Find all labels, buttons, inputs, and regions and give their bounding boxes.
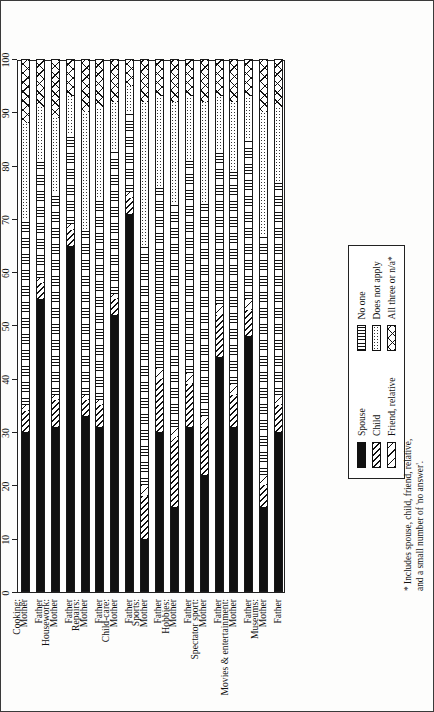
bar-segment-spouse: [66, 246, 75, 592]
bar-row: [200, 61, 209, 592]
bar-segment-no-one: [274, 182, 283, 395]
bar-segment-spouse: [200, 475, 209, 592]
bar-segment-child: [244, 310, 253, 337]
bar-segment-no-one: [51, 192, 60, 395]
bar-segment-does-not-apply: [110, 102, 119, 150]
x-axis-tick-label: 30: [0, 428, 11, 438]
footnote-line-2: and a small number of 'no answer'.: [414, 261, 427, 591]
bar-row: [170, 61, 179, 592]
bar-row: [140, 61, 149, 592]
bar-segment-no-one: [110, 150, 119, 294]
bar-segment-all-three-or-n-a: [36, 59, 45, 107]
legend-item: All three or n/a*: [386, 256, 397, 351]
bar-segment-spouse: [155, 432, 164, 592]
bar-segment-all-three-or-n-a: [155, 59, 164, 96]
bar-segment-does-not-apply: [21, 123, 30, 219]
x-axis: 0102030405060708090100: [1, 60, 17, 593]
bar-segment-friend-relative: [36, 278, 45, 283]
figure-footnote: * Includes spouse, child, friend, relati…: [402, 261, 427, 591]
bar-segment-child: [170, 437, 179, 506]
legend-swatch: [357, 325, 366, 351]
bar-segment-child: [51, 400, 60, 427]
legend-label: Does not apply: [371, 261, 382, 319]
bar-segment-all-three-or-n-a: [215, 59, 224, 96]
bar-segment-child: [215, 315, 224, 358]
bar-segment-no-one: [36, 160, 45, 277]
y-axis-labels: MotherCooking:FatherMotherHousework:Fath…: [17, 595, 285, 711]
bar-segment-does-not-apply: [274, 107, 283, 182]
bar-segment-child: [125, 198, 134, 214]
y-axis-group-label: Sports:: [131, 599, 141, 626]
bar-segment-child: [229, 395, 238, 427]
bar-segment-no-one: [215, 150, 224, 305]
x-axis-tick-label: 20: [0, 482, 11, 492]
bar-segment-friend-relative: [110, 294, 119, 299]
bar-segment-does-not-apply: [51, 118, 60, 193]
bar-row: [185, 61, 194, 592]
y-axis-group-label: Museums:: [250, 599, 260, 639]
y-axis-group-label: Housework:: [42, 599, 52, 646]
bar-segment-child: [95, 405, 104, 426]
bar-segment-friend-relative: [155, 368, 164, 379]
bar-segment-no-one: [170, 203, 179, 427]
bar-segment-does-not-apply: [95, 107, 104, 198]
bar-segment-all-three-or-n-a: [21, 59, 30, 123]
bar-segment-child: [81, 400, 90, 416]
bar-segment-spouse: [185, 427, 194, 592]
x-axis-tick-label: 70: [0, 215, 11, 225]
legend-swatch: [372, 325, 381, 351]
bar-row: [155, 61, 164, 592]
bar-segment-child: [36, 283, 45, 299]
bar-row: [110, 61, 119, 592]
x-axis-tick-label: 50: [0, 322, 11, 332]
bar-segment-does-not-apply: [215, 96, 224, 149]
bar-segment-does-not-apply: [200, 102, 209, 203]
legend-column-right: No oneDoes not applyAll three or n/a*: [356, 256, 397, 351]
bar-segment-child: [155, 379, 164, 432]
bar-segment-no-one: [244, 139, 253, 299]
bar-segment-spouse: [274, 432, 283, 592]
legend-item: Spouse: [356, 377, 367, 468]
bar-segment-spouse: [244, 336, 253, 592]
legend-item: Friend, relative: [386, 377, 397, 468]
bar-segment-spouse: [229, 427, 238, 592]
bar-row: [66, 61, 75, 592]
bar-segment-child: [274, 405, 283, 432]
bar-segment-child: [259, 485, 268, 506]
y-axis-group-label: Child-care:: [101, 599, 111, 642]
bar-segment-spouse: [170, 507, 179, 592]
bar-row: [125, 61, 134, 592]
bar-segment-friend-relative: [274, 395, 283, 406]
x-axis-tick-label: 90: [0, 109, 11, 119]
bar-row: [51, 61, 60, 592]
legend-column-left: SpouseChildFriend, relative: [356, 377, 397, 468]
bar-segment-child: [200, 427, 209, 475]
bar-segment-all-three-or-n-a: [229, 59, 238, 102]
bar-segment-does-not-apply: [229, 102, 238, 171]
legend-item: Does not apply: [371, 256, 382, 351]
legend-swatch: [387, 325, 396, 351]
bar-segment-friend-relative: [81, 395, 90, 400]
bar-row: [36, 61, 45, 592]
bar-segment-no-one: [140, 246, 149, 486]
bar-segment-friend-relative: [170, 427, 179, 438]
bar-segment-no-one: [95, 198, 104, 401]
bar-row: [215, 61, 224, 592]
legend-item: Child: [371, 377, 382, 468]
bar-segment-all-three-or-n-a: [170, 59, 179, 102]
bar-segment-friend-relative: [185, 373, 194, 384]
bar-segment-friend-relative: [95, 400, 104, 405]
bar-segment-friend-relative: [21, 405, 30, 410]
bar-segment-child: [110, 299, 119, 315]
legend: SpouseChildFriend, relative No oneDoes n…: [348, 245, 405, 479]
bar-segment-does-not-apply: [244, 96, 253, 139]
bar-segment-no-one: [21, 219, 30, 406]
bar-segment-does-not-apply: [185, 96, 194, 160]
bar-segment-no-one: [81, 230, 90, 395]
bar-segment-all-three-or-n-a: [274, 59, 283, 107]
bar-segment-friend-relative: [200, 416, 209, 427]
bar-segment-does-not-apply: [259, 112, 268, 235]
bar-row: [95, 61, 104, 592]
bar-segment-all-three-or-n-a: [125, 59, 134, 86]
bar-segment-all-three-or-n-a: [185, 59, 194, 96]
